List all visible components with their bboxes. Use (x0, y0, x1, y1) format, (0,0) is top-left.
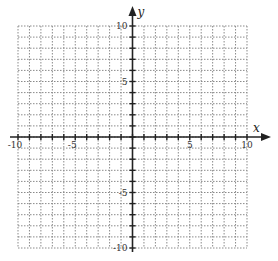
y-axis-arrow-icon (129, 6, 137, 16)
y-tick-label: 10 (116, 21, 128, 31)
y-axis-label: y (137, 5, 145, 19)
coordinate-plane: -10-5510105-5-10xy (0, 0, 278, 261)
x-axis-arrow-icon (261, 133, 271, 141)
y-tick-label: 5 (122, 77, 128, 87)
x-tick-label: 10 (241, 140, 253, 150)
x-axis-label: x (253, 121, 260, 135)
y-tick-label: -10 (113, 243, 128, 253)
tick-labels: -10-5510105-5-10xy (8, 5, 260, 253)
x-tick-label: 5 (187, 140, 193, 150)
x-tick-label: -5 (68, 140, 77, 150)
y-tick-label: -5 (119, 188, 128, 198)
x-tick-label: -10 (8, 140, 23, 150)
